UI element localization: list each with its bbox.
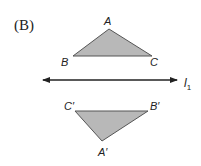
reflection-diagram: (B) A B C l1 C′ B′ A′	[0, 0, 201, 166]
vertex-label-a: A	[103, 15, 111, 27]
triangle-abc	[73, 29, 152, 56]
option-label: (B)	[14, 17, 34, 34]
vertex-label-b-prime: B′	[150, 100, 160, 112]
vertex-label-b: B	[61, 56, 68, 68]
vertex-label-a-prime: A′	[97, 146, 108, 158]
vertex-label-c: C	[150, 56, 158, 68]
line-label: l1	[184, 76, 192, 92]
triangle-a-prime-b-prime-c-prime	[75, 111, 148, 141]
vertex-label-c-prime: C′	[64, 100, 75, 112]
